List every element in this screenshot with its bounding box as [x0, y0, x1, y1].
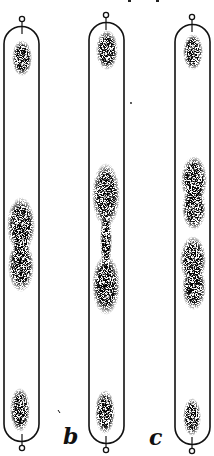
tube-3-blobs [180, 34, 207, 436]
tubes-diagram [0, 0, 214, 456]
tubes-figure: b c [0, 0, 214, 456]
electrode-icon [19, 434, 24, 451]
electrode-icon [189, 14, 194, 32]
label-c: c [149, 426, 162, 448]
tube-1-blobs [7, 40, 35, 432]
electrode-icon [103, 436, 108, 453]
top-cropped-marks [128, 0, 159, 2]
tube-2-blobs [92, 30, 120, 434]
label-b: b [63, 425, 78, 447]
stray-dot [130, 102, 132, 104]
tube-1 [4, 16, 39, 450]
tube-2 [89, 12, 132, 452]
tube-3-outline [175, 25, 210, 445]
electrode-icon [189, 437, 194, 454]
electrode-icon [103, 12, 108, 30]
tube-3 [175, 14, 210, 453]
stray-mark [58, 410, 60, 413]
electrode-icon [19, 16, 24, 34]
